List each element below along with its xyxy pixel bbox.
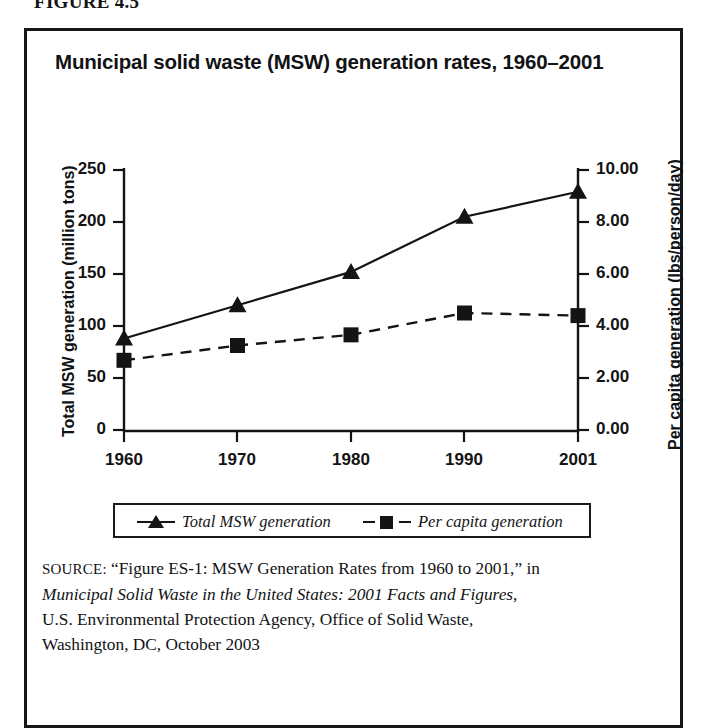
- x-tick-1970: 1970: [202, 450, 272, 470]
- y-right-tick-2: 2.00: [596, 367, 656, 387]
- legend-label-per-capita: Per capita generation: [418, 512, 563, 532]
- legend-item-per-capita[interactable]: Per capita generation: [363, 512, 563, 532]
- x-tick-1960: 1960: [89, 450, 159, 470]
- x-tick-1980: 1980: [316, 450, 386, 470]
- legend-item-total-msw[interactable]: Total MSW generation: [137, 512, 331, 532]
- chart-legend: Total MSW generation Per capita generati…: [113, 503, 591, 538]
- y-right-tick-8: 8.00: [596, 211, 656, 231]
- y-left-tick-50: 50: [60, 367, 106, 387]
- x-tick-2001: 2001: [543, 450, 613, 470]
- source-publication-title: Municipal Solid Waste in the United Stat…: [42, 585, 513, 604]
- y-right-tick-4: 4.00: [596, 315, 656, 335]
- legend-label-total-msw: Total MSW generation: [182, 512, 331, 532]
- y-left-tick-0: 0: [60, 419, 106, 439]
- figure-caption: FIGURE 4.5: [34, 0, 139, 13]
- y-left-tick-150: 150: [60, 263, 106, 283]
- x-tick-1990: 1990: [429, 450, 499, 470]
- source-line-1: SOURCE: “Figure ES-1: MSW Generation Rat…: [42, 556, 662, 582]
- source-label: SOURCE:: [42, 561, 107, 577]
- source-line-1-text: “Figure ES-1: MSW Generation Rates from …: [107, 559, 540, 578]
- y-left-tick-100: 100: [60, 315, 106, 335]
- y-axis-left-title: Total MSW generation (million tons): [60, 165, 78, 437]
- y-right-tick-6: 6.00: [596, 263, 656, 283]
- legend-square-marker-icon: [363, 513, 411, 531]
- source-line-2-tail: ,: [513, 585, 517, 604]
- chart-title: Municipal solid waste (MSW) generation r…: [55, 50, 603, 74]
- y-left-tick-250: 250: [60, 159, 106, 179]
- y-axis-right-title: Per capita generation (lbs/person/day): [666, 159, 684, 450]
- y-right-tick-0: 0.00: [596, 419, 656, 439]
- y-right-tick-10: 10.00: [596, 159, 656, 179]
- source-line-4: Washington, DC, October 2003: [42, 632, 662, 657]
- legend-triangle-marker-icon: [137, 513, 175, 531]
- y-left-tick-200: 200: [60, 211, 106, 231]
- source-line-3: U.S. Environmental Protection Agency, Of…: [42, 607, 662, 632]
- source-note: SOURCE: “Figure ES-1: MSW Generation Rat…: [42, 556, 662, 657]
- source-line-2: Municipal Solid Waste in the United Stat…: [42, 582, 662, 607]
